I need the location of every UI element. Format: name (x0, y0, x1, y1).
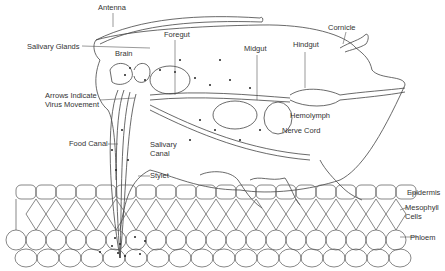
label-hindgut: Hindgut (293, 41, 319, 50)
hindgut (290, 88, 405, 106)
label-phloem: Phloem (410, 234, 435, 243)
label-mesophyll-2: Cells (405, 213, 422, 222)
label-arrows-line2: Virus Movement (45, 101, 99, 110)
phloem-cells (6, 230, 411, 267)
mesophyll-cells (16, 199, 406, 230)
label-nerve-cord: Nerve Cord (282, 127, 320, 136)
cornicle (340, 34, 368, 52)
label-brain: Brain (115, 50, 133, 59)
virus-particles (99, 59, 261, 257)
label-hemolymph: Hemolymph (290, 112, 330, 121)
label-midgut: Midgut (244, 45, 267, 54)
label-cornicle: Cornicle (328, 24, 356, 33)
foregut-bulb (150, 66, 190, 94)
midgut-loop-1 (213, 101, 257, 129)
label-antenna: Antenna (98, 4, 126, 13)
label-food-canal: Food Canal (69, 140, 108, 149)
label-salivary-canal-2: Canal (150, 150, 170, 159)
plant-tissue (6, 185, 416, 267)
label-stylet: Stylet (150, 172, 169, 181)
label-epidermis: Epidermis (407, 189, 440, 198)
aphid-diagram (0, 0, 445, 271)
brain (110, 63, 132, 84)
label-salivary-glands: Salivary Glands (27, 43, 80, 52)
label-foregut: Foregut (164, 31, 190, 40)
